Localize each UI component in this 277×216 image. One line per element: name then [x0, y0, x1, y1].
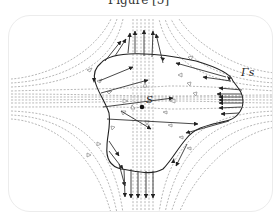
saddle-point-label: S: [146, 94, 153, 105]
boundary-curve: [94, 54, 243, 173]
saddle-point: [140, 105, 145, 110]
boundary-curve-label: Γs: [241, 66, 254, 79]
diagram-panel: S Γs: [8, 15, 273, 212]
streamlines: [11, 19, 272, 211]
vector-field-diagram: [9, 16, 272, 211]
figure-caption: Figure [5]: [0, 0, 277, 7]
